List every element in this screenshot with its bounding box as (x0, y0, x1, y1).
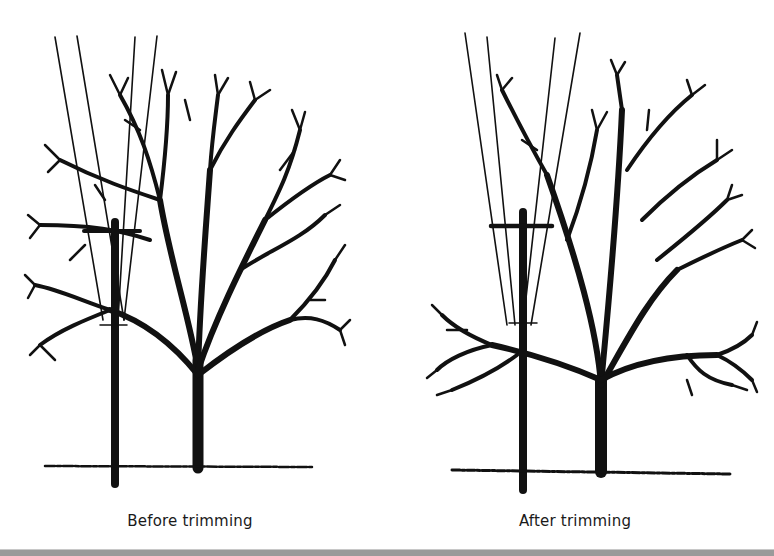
before-trimming-caption: Before trimming (110, 512, 270, 530)
bottom-border (0, 549, 774, 556)
before-trimming-panel: Before trimming (0, 0, 387, 549)
power-lines (55, 36, 157, 320)
after-trimming-caption: After trimming (495, 512, 655, 530)
after-trimming-panel: After trimming (387, 0, 774, 549)
after-trimming-illustration (387, 0, 774, 549)
before-trimming-illustration (0, 0, 387, 549)
ground-line (452, 470, 730, 474)
ground-line (45, 466, 312, 467)
